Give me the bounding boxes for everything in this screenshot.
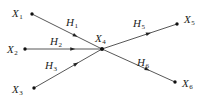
node-label-x5: X5 — [183, 13, 195, 27]
node-label-x3: X3 — [11, 83, 23, 97]
edge-label-h3: H3 — [44, 59, 57, 73]
node-dot-x5 — [175, 22, 178, 25]
arrowhead-icon — [146, 33, 151, 36]
labels-layer: H1H2H3H5H6X1X2X3X4X5X6 — [6, 7, 195, 97]
edge-label-h5: H5 — [132, 17, 145, 31]
node-dot-x4 — [100, 47, 104, 51]
edge-label-h1: H1 — [65, 16, 78, 30]
node-label-x6: X6 — [181, 77, 193, 91]
arrowhead-icon — [73, 63, 78, 67]
node-dot-x2 — [23, 47, 26, 50]
node-dot-x3 — [32, 86, 35, 89]
node-dot-x6 — [173, 80, 176, 83]
nodes-layer — [23, 12, 178, 89]
arrowhead-icon — [72, 33, 77, 37]
node-label-x4: X4 — [94, 32, 106, 46]
edge-label-h6: H6 — [136, 56, 149, 70]
edges-layer — [25, 14, 177, 88]
node-dot-x1 — [30, 12, 33, 15]
node-label-x1: X1 — [11, 7, 23, 21]
node-label-x2: X2 — [6, 43, 18, 57]
edge-label-h2: H2 — [49, 35, 62, 49]
arrowhead-icon — [70, 47, 75, 51]
directed-graph-diagram: H1H2H3H5H6X1X2X3X4X5X6 — [0, 0, 201, 102]
